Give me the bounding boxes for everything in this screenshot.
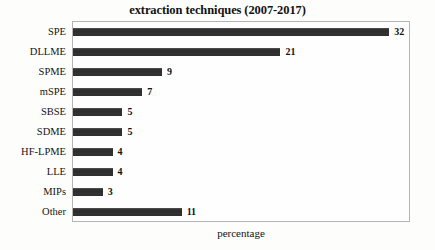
bar-track: 4 [73,162,435,181]
bar[interactable] [73,108,122,116]
bar-track: 3 [73,182,435,201]
bar-value-label: 3 [108,182,113,201]
bar[interactable] [73,88,142,96]
bar[interactable] [73,128,122,136]
category-label: DLLME [0,42,66,61]
bar-row: SPME9 [0,62,435,81]
bar[interactable] [73,168,113,176]
category-label: SPME [0,62,66,81]
bar-value-label: 11 [187,202,196,221]
bar-chart-figure: extraction techniques (2007-2017) SPE32D… [0,0,435,250]
category-label: MIPs [0,182,66,201]
bar-track: 5 [73,122,435,141]
bar-track: 21 [73,42,435,61]
category-label: SPE [0,22,66,41]
bar-row: DLLME21 [0,42,435,61]
category-label: Other [0,202,66,221]
bar-row: SPE32 [0,22,435,41]
category-label: mSPE [0,82,66,101]
bar-value-label: 9 [167,62,172,81]
bar[interactable] [73,48,280,56]
bar-row: SDME5 [0,122,435,141]
bar-track: 11 [73,202,435,221]
bar-row: SBSE5 [0,102,435,121]
bar[interactable] [73,188,103,196]
bar-value-label: 4 [118,142,123,161]
bar-value-label: 5 [127,102,132,121]
bar-value-label: 4 [118,162,123,181]
x-axis-title: percentage [72,227,410,239]
bar-row: Other11 [0,202,435,221]
chart-title: extraction techniques (2007-2017) [0,3,435,18]
category-label: LLE [0,162,66,181]
bar-track: 32 [73,22,435,41]
bar-row: mSPE7 [0,82,435,101]
bar-value-label: 21 [285,42,295,61]
bar-row: LLE4 [0,162,435,181]
category-label: SBSE [0,102,66,121]
bar-value-label: 5 [127,122,132,141]
bar[interactable] [73,68,162,76]
bar-track: 9 [73,62,435,81]
bar[interactable] [73,28,389,36]
bar-track: 4 [73,142,435,161]
bar-track: 5 [73,102,435,121]
bar[interactable] [73,208,182,216]
bar-row: MIPs3 [0,182,435,201]
bar-value-label: 7 [147,82,152,101]
category-label: SDME [0,122,66,141]
bar-track: 7 [73,82,435,101]
category-label: HF-LPME [0,142,66,161]
bar-value-label: 32 [394,22,404,41]
bar-row: HF-LPME4 [0,142,435,161]
bar[interactable] [73,148,113,156]
